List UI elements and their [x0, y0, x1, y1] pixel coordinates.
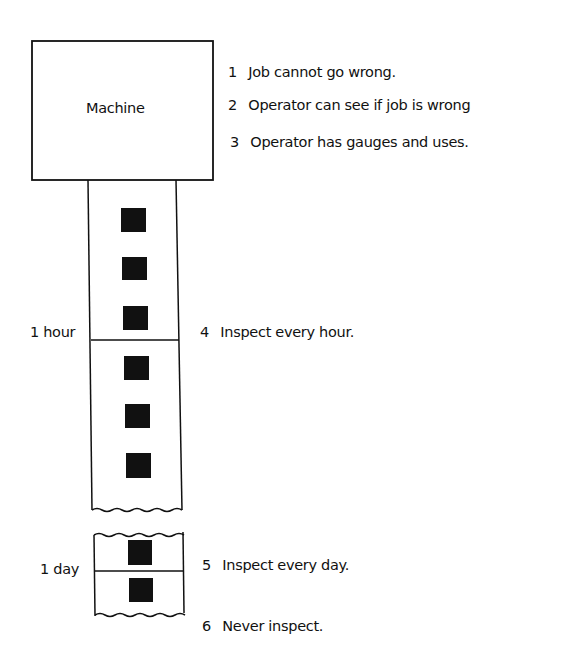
workpiece: [123, 306, 148, 330]
interval-hour-label: 1 hour: [30, 324, 75, 340]
note-2: 2 Operator can see if job is wrong: [228, 97, 470, 113]
workpieces-upper: [121, 208, 151, 478]
note-4: 4 Inspect every hour.: [200, 324, 354, 340]
note-5: 5 Inspect every day.: [202, 557, 349, 573]
workpiece: [122, 257, 147, 280]
workpiece: [128, 540, 152, 565]
note-6: 6 Never inspect.: [202, 618, 323, 634]
workpiece: [124, 356, 149, 380]
conveyor-break: [92, 509, 182, 512]
workpiece: [125, 404, 150, 428]
workpiece: [126, 453, 151, 478]
interval-day-label: 1 day: [40, 561, 79, 577]
workpiece: [121, 208, 146, 232]
machine-label: Machine: [86, 100, 145, 116]
workpiece: [129, 578, 153, 602]
note-3: 3 Operator has gauges and uses.: [230, 134, 469, 150]
note-1: 1 Job cannot go wrong.: [228, 64, 396, 80]
